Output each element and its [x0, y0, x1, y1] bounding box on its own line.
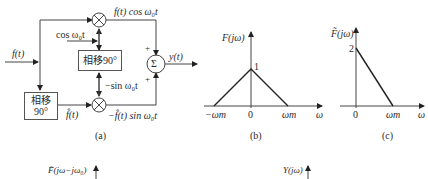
phase-shift-left-line1: 相移 — [31, 95, 51, 107]
c-tick-zero: 0 — [353, 110, 358, 120]
caption-a: (a) — [95, 130, 106, 141]
b-tick-neg: −ωm — [205, 110, 226, 120]
c-peak-label: 2 — [349, 44, 354, 54]
c-ylabel: F̃(jω) — [331, 29, 354, 39]
b-tick-zero: 0 — [248, 110, 253, 120]
cos-carrier-label: cos ω₀t — [56, 30, 85, 40]
phase-shift-left-line2: 90° — [34, 106, 48, 118]
lower-product-label: −f̂(t) sin ω₀t — [108, 111, 157, 121]
b-ylabel: F(jω) — [222, 33, 245, 43]
phase-shift-box-left: 相移 90° — [24, 92, 58, 120]
plus-bottom: + — [145, 75, 150, 84]
caption-c: (c) — [382, 130, 393, 141]
hilbert-label: f̂(t) — [66, 110, 78, 120]
caption-b: (b) — [250, 130, 262, 141]
d-ylabel: F̃(jω−jω₀) — [48, 166, 86, 175]
input-label: f(t) — [12, 49, 24, 59]
phase-shift-box-center: 相移90° — [78, 50, 122, 71]
b-peak-label: 1 — [254, 62, 259, 72]
phase-shift-center-text: 相移90° — [83, 55, 117, 67]
e-ylabel: Y(jω) — [283, 166, 303, 175]
sum-symbol: Σ — [151, 59, 157, 69]
b-xlabel: ω — [316, 110, 323, 120]
output-label: y(t) — [169, 52, 183, 62]
plus-top: + — [145, 44, 150, 53]
diagram-canvas — [0, 0, 428, 179]
b-tick-pos: ωm — [282, 110, 296, 120]
neg-sin-label: −sin ω₀t — [105, 81, 138, 91]
c-tick-pos: ωm — [386, 110, 400, 120]
c-xlabel: ω — [418, 110, 425, 120]
c-ramp-spectrum — [356, 48, 393, 106]
upper-product-label: f(t) cos ω₀t — [114, 7, 158, 17]
